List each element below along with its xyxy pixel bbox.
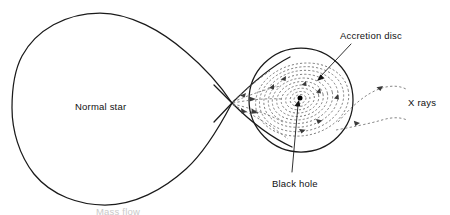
- arrowhead-icon: [249, 97, 256, 102]
- black-hole-label: Black hole: [272, 178, 318, 189]
- x-rays-label: X rays: [408, 97, 436, 108]
- leader-arrowhead-icon: [294, 100, 300, 106]
- xray-outflow-group: [336, 86, 407, 130]
- leader-arrowhead-icon: [317, 74, 325, 81]
- inflow-stream-group: [233, 71, 288, 139]
- arrowhead-icon: [377, 86, 384, 91]
- leader-line: [292, 105, 298, 172]
- arrowhead-icon: [251, 109, 259, 114]
- accretion-diagram: Normal star Accretion disc Black hole X …: [0, 0, 450, 215]
- arrowhead-icon: [334, 94, 339, 100]
- inflow-stream-1: [233, 99, 282, 103]
- arrowhead-icon: [299, 129, 306, 134]
- diagram-canvas: Normal star Accretion disc Black hole X …: [0, 0, 450, 215]
- arrowhead-icon: [316, 119, 323, 124]
- leader-line: [320, 44, 351, 77]
- accretion-disc-leader: [317, 44, 351, 81]
- black-hole-dot-icon: [298, 96, 303, 101]
- accretion-disc-label: Accretion disc: [340, 30, 402, 41]
- normal-star-label: Normal star: [75, 101, 126, 112]
- cropped-caption-fragment: Mass flow: [96, 206, 140, 215]
- arrowhead-icon: [241, 108, 247, 113]
